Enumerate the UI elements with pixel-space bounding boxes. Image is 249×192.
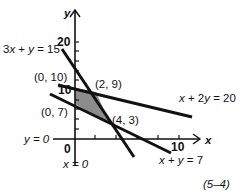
y-axis-equation-label: x = 0 — [62, 158, 89, 170]
origin-label: 0 — [64, 142, 71, 156]
figure-caption: (5–4) — [203, 178, 230, 190]
line-3x-plus-y-15 — [62, 49, 134, 157]
y-tick-10: 10 — [58, 83, 72, 97]
vertex-label-0-7: (0, 7) — [41, 106, 68, 118]
vertex-label-0-10: (0, 10) — [34, 71, 67, 83]
label-3x-plus-y-15: 3x + y = 15 — [3, 43, 60, 55]
vertex-label-2-9: (2, 9) — [95, 78, 122, 90]
label-x-plus-2y-20: x + 2y = 20 — [178, 92, 236, 104]
x-axis-label: x — [204, 134, 212, 146]
label-x-plus-y-7: x + y = 7 — [158, 154, 203, 166]
linear-programming-graph: y x 20 10 0 10 y = 0 x = 0 3x + y = 15 x… — [0, 0, 249, 192]
vertex-label-4-3: (4, 3) — [112, 114, 139, 126]
y-axis-label: y — [63, 7, 71, 19]
x-tick-10: 10 — [171, 140, 185, 154]
x-axis-equation-label: y = 0 — [23, 133, 50, 145]
